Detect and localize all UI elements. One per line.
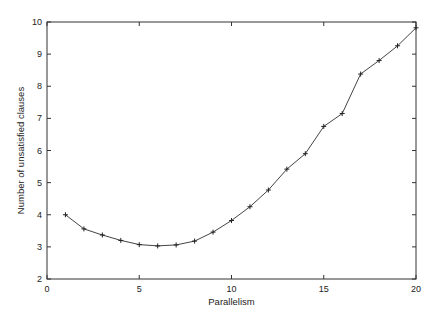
y-tick-label: 8 [37,81,42,91]
x-tick-label: 20 [411,284,421,294]
plot-frame [47,22,416,279]
x-axis: 05101520 [44,22,421,294]
plus-marker-icon [155,243,160,248]
x-tick-label: 0 [44,284,49,294]
y-tick-label: 7 [37,113,42,123]
y-tick-label: 9 [37,49,42,59]
data-line [66,28,417,246]
x-axis-title: Parallelism [208,296,255,307]
x-tick-label: 10 [226,284,236,294]
y-tick-label: 4 [37,210,42,220]
plus-marker-icon [211,230,216,235]
y-axis-title: Number of unsatisfied clauses [15,87,26,215]
y-tick-label: 3 [37,242,42,252]
line-chart: 05101520 2345678910 Parallelism Number o… [0,0,439,318]
x-tick-label: 15 [319,284,329,294]
plus-marker-icon [100,232,105,237]
plus-marker-icon [192,239,197,244]
y-tick-label: 10 [32,17,42,27]
y-tick-label: 2 [37,274,42,284]
plus-marker-icon [137,242,142,247]
y-tick-label: 5 [37,178,42,188]
x-tick-label: 5 [137,284,142,294]
plus-marker-icon [174,242,179,247]
y-tick-label: 6 [37,146,42,156]
data-markers [63,25,419,248]
plus-marker-icon [118,238,123,243]
y-axis: 2345678910 [32,17,416,284]
